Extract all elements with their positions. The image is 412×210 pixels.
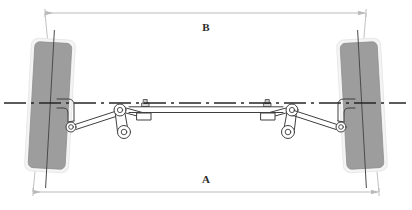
- left-sleeve-block: [137, 113, 151, 120]
- left-idler-lower-pivot-inner: [121, 129, 127, 135]
- dimension-a-label: A: [196, 173, 216, 185]
- left-idler-upper-pivot-inner: [117, 107, 122, 112]
- right-ball-joint-inner: [339, 125, 344, 130]
- steering-linkage: [57, 99, 355, 139]
- dimension-b-label: B: [196, 21, 216, 33]
- diagram-canvas: B A: [0, 0, 412, 210]
- right-sleeve-block: [261, 113, 275, 120]
- right-idler-upper-pivot-inner: [289, 107, 294, 112]
- left-ball-joint-inner: [69, 125, 74, 130]
- right-idler-lower-pivot-inner: [285, 129, 291, 135]
